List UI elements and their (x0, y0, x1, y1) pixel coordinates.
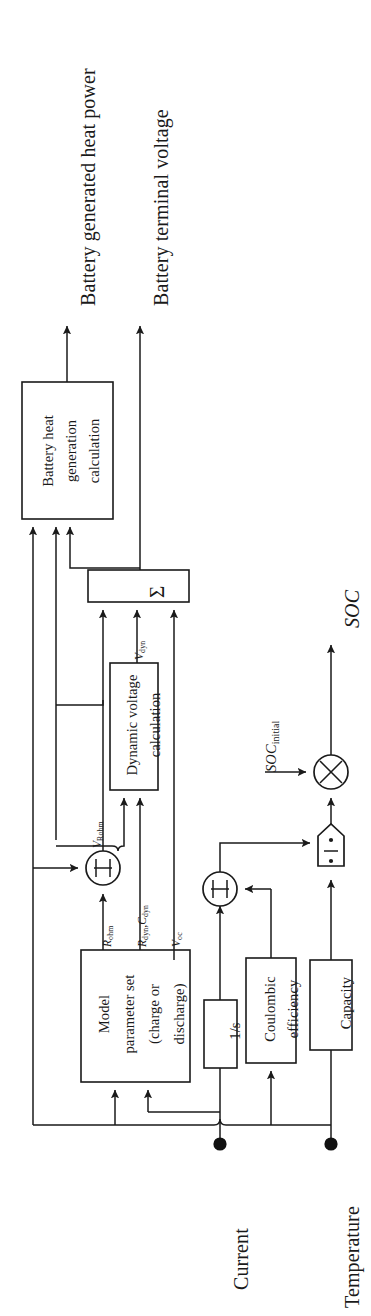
label-signal-rdyn-cdyn: Rdyn,Cdyn (136, 905, 151, 947)
label-signal-v-dyn: Vdyn (133, 641, 148, 660)
label-signal-cdyn-base: C (136, 917, 148, 925)
label-signal-v-rohm-base: V (91, 841, 103, 848)
figure-canvas: Battery generated heat power Battery ter… (0, 0, 371, 1316)
label-signal-rdyn-cdyn-sep: , (136, 925, 148, 928)
input-node-current (213, 1137, 226, 1150)
label-signal-v-oc: Voc (170, 932, 185, 947)
bus-current-horizontal (33, 1119, 331, 1125)
label-signal-r-ohm-base: R (101, 940, 113, 947)
label-signal-r-ohm-sub: ohm (106, 926, 115, 940)
link-vrohm-elbow-to-sigma (56, 700, 103, 705)
label-signal-r-ohm: Rohm (101, 926, 116, 947)
label-signal-rdyn-base: R (136, 940, 148, 947)
label-soc-initial-sub: initial (270, 721, 281, 745)
label-input-current: Current (230, 1228, 252, 1290)
label-signal-v-rohm-sub: Rohm (96, 821, 105, 841)
label-block-coulombic-line1: Coulombic (262, 960, 278, 1058)
input-node-temperature (324, 1137, 337, 1150)
label-signal-v-oc-base: V (170, 940, 182, 947)
label-block-model-param-line1: Model (96, 953, 112, 1075)
label-soc-initial: SOCinitial (263, 721, 281, 772)
link-sigma-to-heatgen (70, 562, 140, 568)
label-block-heat-generation-line1: Battery heat (40, 391, 56, 511)
label-signal-rdyn-sub: dyn (141, 928, 150, 940)
link-multiplier-charge-to-divider (220, 843, 284, 872)
label-block-coulombic-line2: efficiency (285, 960, 301, 1058)
label-output-soc: SOC (341, 590, 363, 628)
label-output-terminal-voltage: Battery terminal voltage (150, 109, 172, 306)
label-block-model-param-line4: discharge) (171, 953, 187, 1075)
label-signal-cdyn-sub: dyn (141, 905, 150, 917)
label-block-capacity: Capacity (338, 961, 354, 1045)
label-block-heat-generation-line3: calculation (86, 391, 102, 511)
label-soc-initial-base: SOC (263, 744, 279, 772)
label-block-model-param-line3: (charge or (146, 953, 162, 1075)
label-block-integrator: 1/s (227, 1004, 243, 1058)
block-diagram-svg (0, 0, 371, 1316)
label-signal-v-rohm: VRohm (91, 821, 106, 848)
label-block-summation-sigma: Σ (146, 586, 170, 598)
label-signal-v-oc-sub: oc (175, 932, 184, 940)
label-input-temperature: Temperature (341, 1206, 363, 1308)
label-signal-v-dyn-sub: dyn (138, 641, 147, 653)
label-block-model-param-line2: parameter set (121, 953, 137, 1075)
label-block-dynamic-voltage-line1: Dynamic voltage (124, 666, 140, 784)
label-block-heat-generation-line2: generation (63, 391, 79, 511)
block-summation (88, 570, 189, 602)
label-signal-v-dyn-base: V (133, 653, 145, 660)
label-output-heat-power: Battery generated heat power (77, 68, 99, 306)
label-block-dynamic-voltage-line2: calculation (147, 666, 163, 784)
junction-brace-dynvolt (56, 840, 124, 851)
